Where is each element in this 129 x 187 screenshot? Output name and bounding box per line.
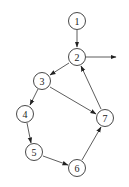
- node-3: 3: [34, 73, 51, 90]
- edge-5-6: [43, 156, 68, 165]
- node-6: 6: [69, 160, 86, 177]
- node-label: 6: [75, 163, 80, 174]
- edge-4-5: [27, 123, 31, 143]
- node-label: 7: [103, 113, 108, 124]
- node-label: 3: [40, 76, 45, 87]
- edge-3-7: [50, 87, 96, 114]
- flow-graph: 1 2 3 4 5 6 7: [0, 0, 129, 187]
- edge-3-4: [30, 89, 38, 105]
- edge-2-3: [50, 63, 69, 75]
- node-label: 2: [75, 52, 80, 63]
- node-label: 1: [75, 16, 80, 27]
- edge-6-7: [82, 127, 101, 160]
- node-label: 5: [32, 147, 37, 158]
- node-7: 7: [97, 110, 114, 127]
- node-2: 2: [69, 49, 86, 66]
- node-label: 4: [23, 109, 28, 120]
- node-4: 4: [17, 106, 34, 123]
- node-1: 1: [69, 13, 86, 30]
- node-5: 5: [26, 144, 43, 161]
- edge-7-2: [81, 66, 101, 109]
